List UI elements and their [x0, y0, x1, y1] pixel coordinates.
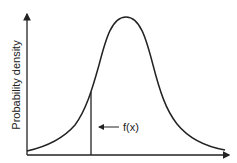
probability-density-diagram: f(x) Probability density	[0, 0, 237, 163]
y-axis-label: Probability density	[10, 40, 22, 130]
annotation-label: f(x)	[123, 121, 139, 133]
